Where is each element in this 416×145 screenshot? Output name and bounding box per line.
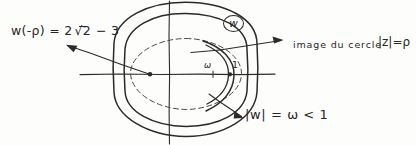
vertical-axis <box>169 1 170 144</box>
arrow-to-image-caption-head <box>273 37 284 44</box>
omega-tick-label: ω <box>204 61 211 70</box>
modulus-z-label: |z|=ρ <box>378 36 410 48</box>
horizontal-axis <box>80 74 275 75</box>
arrow-to-image-caption-shaft <box>191 41 281 53</box>
arrow-to-left-formula-head <box>66 45 78 52</box>
left-formula-prefix: w(-ρ) = 2 <box>11 23 73 38</box>
square-root-symbol: √2 <box>73 25 92 38</box>
left-formula-suffix: − 3 <box>96 23 119 38</box>
handwritten-complex-plane-figure: w(-ρ) = 2√2 − 3 w image du cercle |z|=ρ … <box>0 0 416 145</box>
one-tick-label: 1 <box>232 60 238 70</box>
image-caption: image du cercle <box>293 40 382 50</box>
arrow-to-modulus-w-head <box>234 112 244 119</box>
right-intersection-point <box>228 72 232 76</box>
w-plane-label: w <box>223 15 244 32</box>
w-plane-label-text: w <box>229 18 238 29</box>
arrow-to-left-formula-shaft <box>68 46 150 75</box>
figure-canvas <box>0 0 416 145</box>
modulus-w-label: |w| = ω < 1 <box>245 108 328 121</box>
left-formula: w(-ρ) = 2√2 − 3 <box>11 25 119 38</box>
